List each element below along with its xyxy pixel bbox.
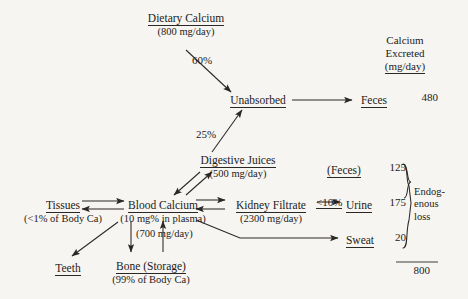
blood-calcium-sub: (10 mg% in plasma) (106, 213, 220, 225)
urine-label: Urine (346, 199, 372, 213)
rate-bone-exchange: (700 mg/day) (136, 228, 193, 239)
node-dietary-calcium: Dietary Calcium (800 mg/day) (126, 8, 246, 38)
feces-label: Feces (361, 94, 387, 108)
dietary-calcium-label: Dietary Calcium (148, 12, 224, 26)
node-sweat: Sweat (338, 230, 382, 248)
endogenous-loss-label: Endog- enous loss (414, 186, 466, 223)
pct-dietary-absorbed: 60% (192, 54, 212, 66)
digestive-juices-label: Digestive Juices (200, 154, 275, 168)
node-teeth: Teeth (44, 258, 92, 276)
endogenous-loss-line2: enous (414, 198, 466, 210)
endogenous-loss-line1: Endog- (414, 186, 466, 198)
endogenous-loss-line3: loss (414, 211, 466, 223)
bone-label: Bone (Storage) (116, 260, 186, 274)
kidney-filtrate-sub: (2300 mg/day) (222, 213, 320, 225)
excreted-header-line3: (mg/day) (385, 60, 425, 74)
unabsorbed-label: Unabsorbed (230, 94, 286, 108)
bone-sub: (99% of Body Ca) (96, 274, 206, 286)
pct-kidney-urine: <10% (316, 196, 342, 209)
node-urine: Urine (338, 195, 380, 213)
excreted-header: Calcium Excreted (mg/day) (360, 34, 450, 74)
node-feces-endogenous: (Feces) (316, 160, 372, 178)
kidney-filtrate-label: Kidney Filtrate (236, 199, 306, 213)
dietary-calcium-sub: (800 mg/day) (126, 26, 246, 38)
excreted-header-line2: Excreted (360, 47, 450, 60)
tissues-label: Tissues (46, 199, 80, 213)
pct-digestive-unabsorbed: 25% (196, 128, 216, 140)
calcium-metabolism-diagram: Calcium Excreted (mg/day) Dietary Calciu… (0, 0, 468, 299)
value-sweat: 20 (380, 231, 406, 243)
blood-calcium-label: Blood Calcium (128, 199, 198, 213)
value-total: 800 (400, 264, 430, 276)
node-unabsorbed: Unabsorbed (222, 90, 294, 108)
tissues-sub: (<1% of Body Ca) (14, 213, 112, 225)
node-kidney-filtrate: Kidney Filtrate (2300 mg/day) (222, 195, 320, 225)
node-feces: Feces (352, 90, 396, 108)
value-feces-endogenous: 125 (380, 161, 406, 173)
feces-endogenous-label: (Feces) (327, 164, 361, 178)
excreted-header-line1: Calcium (360, 34, 450, 47)
sweat-label: Sweat (346, 234, 374, 248)
node-blood-calcium: Blood Calcium (10 mg% in plasma) (106, 195, 220, 225)
node-tissues: Tissues (<1% of Body Ca) (14, 195, 112, 225)
pct-kidney-urine-text: <10% (316, 196, 342, 209)
digestive-juices-sub: (500 mg/day) (186, 168, 290, 180)
value-feces: 480 (404, 91, 438, 103)
node-digestive-juices: Digestive Juices (500 mg/day) (186, 150, 290, 180)
teeth-label: Teeth (55, 262, 80, 276)
value-urine: 175 (380, 196, 406, 208)
node-bone: Bone (Storage) (99% of Body Ca) (96, 256, 206, 286)
